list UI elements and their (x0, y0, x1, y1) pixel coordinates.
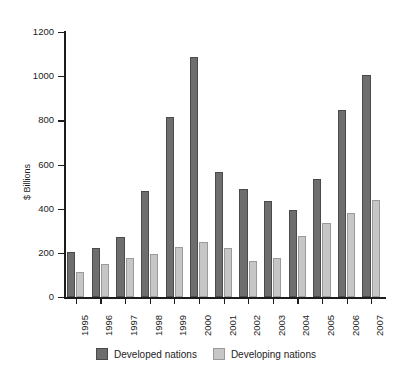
bar-1998-developing (150, 254, 158, 297)
x-axis-tick-label: 2004 (301, 315, 311, 336)
bar-1996-developed (92, 248, 100, 297)
bar-2005-developing (322, 223, 330, 297)
x-axis-tick-label: 2001 (228, 315, 238, 336)
x-axis-tick-label: 1995 (80, 315, 90, 336)
x-axis-tick-label: 2007 (375, 315, 385, 336)
bar-2003-developed (264, 201, 272, 297)
bar-1995-developing (76, 272, 84, 297)
x-axis-tick-label: 2002 (252, 315, 262, 336)
x-axis-tick-label: 2005 (326, 315, 336, 336)
legend-swatch-icon (96, 348, 108, 360)
bar-2006-developed (338, 110, 346, 297)
legend-swatch-icon (213, 348, 225, 360)
x-axis-tick-label: 1996 (104, 315, 114, 336)
bar-2005-developed (313, 179, 321, 297)
x-axis-tick (100, 298, 101, 304)
x-axis-tick (224, 298, 225, 304)
bar-2007-developed (362, 75, 370, 297)
y-axis-title: $ Billions (22, 186, 32, 200)
legend-label: Developed nations (114, 349, 197, 360)
bar-1997-developing (126, 258, 134, 297)
x-axis-tick (297, 298, 298, 304)
bar-1995-developed (67, 252, 75, 297)
plot-area (65, 32, 385, 297)
bar-2003-developing (273, 258, 281, 297)
x-axis-tick (347, 298, 348, 304)
x-axis-tick (322, 298, 323, 304)
bar-1998-developed (141, 191, 149, 297)
bar-1996-developing (101, 264, 109, 297)
x-axis-tick (371, 298, 372, 304)
bar-2007-developing (372, 200, 380, 297)
x-axis-tick-label: 1997 (129, 315, 139, 336)
x-axis-tick-label: 2000 (203, 315, 213, 336)
y-axis-tick-label: 1000 (24, 71, 54, 81)
y-axis-tick-label: 800 (24, 115, 54, 125)
bar-2001-developing (224, 248, 232, 297)
bar-2004-developing (298, 236, 306, 297)
bar-2001-developed (215, 172, 223, 297)
x-axis-tick-label: 2003 (277, 315, 287, 336)
x-axis-line (64, 297, 386, 299)
x-axis-tick-label: 1999 (178, 315, 188, 336)
legend-item-developed[interactable]: Developed nations (96, 348, 197, 360)
bar-chart: $ Billions 020040060080010001200 1995199… (0, 0, 412, 382)
x-axis-tick (248, 298, 249, 304)
x-axis-tick-label: 1998 (154, 315, 164, 336)
x-axis-tick-label: 2006 (351, 315, 361, 336)
y-axis-tick-label: 0 (24, 292, 54, 302)
y-axis-tick-label: 400 (24, 204, 54, 214)
bar-2002-developing (249, 261, 257, 297)
chart-legend: Developed nationsDeveloping nations (0, 348, 412, 360)
y-axis-tick-label: 200 (24, 248, 54, 258)
y-axis-tick-label: 1200 (24, 27, 54, 37)
legend-label: Developing nations (231, 349, 316, 360)
bar-2004-developed (289, 210, 297, 297)
x-axis-tick (150, 298, 151, 304)
bar-2006-developing (347, 213, 355, 297)
bar-1997-developed (116, 237, 124, 297)
x-axis-tick (273, 298, 274, 304)
x-axis-tick (125, 298, 126, 304)
bar-1999-developing (175, 247, 183, 297)
bar-2002-developed (239, 189, 247, 297)
bar-2000-developing (199, 242, 207, 297)
x-axis-tick (76, 298, 77, 304)
y-axis-tick-label: 600 (24, 160, 54, 170)
bar-2000-developed (190, 57, 198, 297)
x-axis-tick (199, 298, 200, 304)
legend-item-developing[interactable]: Developing nations (213, 348, 316, 360)
x-axis-tick (174, 298, 175, 304)
bar-1999-developed (166, 117, 174, 297)
